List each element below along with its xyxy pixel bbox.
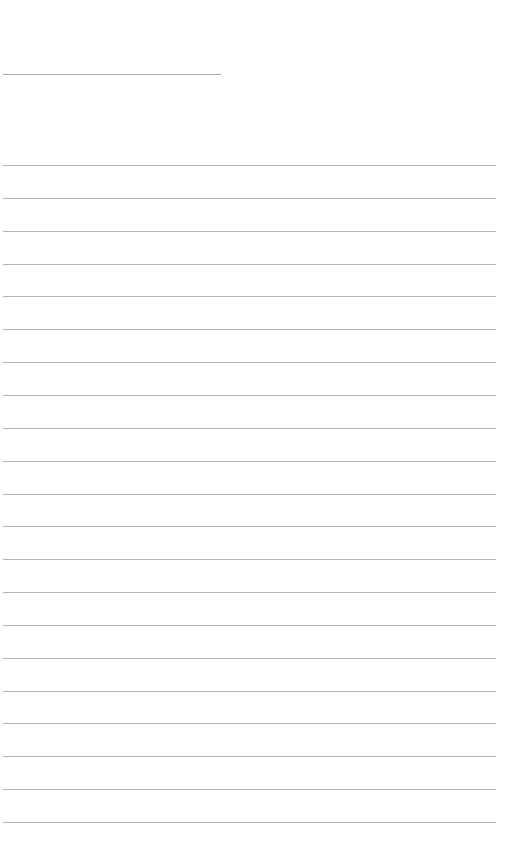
ruled-line bbox=[3, 526, 496, 527]
ruled-line bbox=[3, 723, 496, 724]
ruled-line bbox=[3, 756, 496, 757]
ruled-line bbox=[3, 296, 496, 297]
ruled-line bbox=[3, 395, 496, 396]
lined-page bbox=[0, 0, 532, 859]
ruled-line bbox=[3, 461, 496, 462]
ruled-line bbox=[3, 691, 496, 692]
ruled-line bbox=[3, 264, 496, 265]
ruled-line bbox=[3, 165, 496, 166]
ruled-line bbox=[3, 198, 496, 199]
ruled-line bbox=[3, 559, 496, 560]
ruled-line bbox=[3, 592, 496, 593]
ruled-line bbox=[3, 494, 496, 495]
ruled-line bbox=[3, 658, 496, 659]
ruled-line bbox=[3, 231, 496, 232]
ruled-line bbox=[3, 362, 496, 363]
ruled-line bbox=[3, 625, 496, 626]
ruled-line bbox=[3, 822, 496, 823]
ruled-line bbox=[3, 428, 496, 429]
title-write-line bbox=[3, 74, 221, 75]
ruled-line bbox=[3, 789, 496, 790]
ruled-line bbox=[3, 329, 496, 330]
